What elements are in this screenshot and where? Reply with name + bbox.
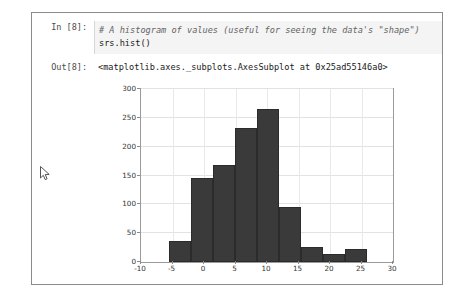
histogram-bar: [345, 249, 367, 262]
x-tick-mark: [203, 261, 204, 264]
code-input-area[interactable]: # A histogram of values (useful for seei…: [94, 21, 442, 54]
output-row: Out[8]: <matplotlib.axes._subplots.AxesS…: [32, 61, 442, 74]
x-tick-mark: [172, 261, 173, 264]
x-tick-mark: [329, 261, 330, 264]
histogram-bar: [301, 247, 323, 262]
y-tick-label: 250: [122, 112, 136, 121]
x-tick-label: 10: [261, 264, 270, 273]
x-tick-mark: [361, 261, 362, 264]
x-tick-label: 30: [387, 264, 396, 273]
x-tick-mark: [140, 261, 141, 264]
y-tick-label: 300: [122, 84, 136, 93]
x-tick-label: 0: [201, 264, 206, 273]
histogram-bar: [257, 109, 279, 262]
input-prompt-label: In [8]:: [32, 21, 94, 34]
x-tick-label: -10: [134, 264, 146, 273]
x-tick-mark: [235, 261, 236, 264]
y-tick-mark: [137, 232, 140, 233]
x-tick-label: 15: [293, 264, 302, 273]
y-tick-mark: [137, 203, 140, 204]
x-tick-mark: [392, 261, 393, 264]
y-tick-mark: [137, 146, 140, 147]
histogram-bar: [213, 165, 235, 262]
y-tick-mark: [137, 175, 140, 176]
y-tick-mark: [137, 88, 140, 89]
output-prompt-label: Out[8]:: [32, 61, 94, 74]
histogram-bars: [141, 89, 393, 262]
notebook-cell: In [8]: # A histogram of values (useful …: [31, 12, 443, 285]
code-comment-line: # A histogram of values (useful for seei…: [99, 24, 438, 37]
y-tick-label: 50: [127, 228, 136, 237]
mouse-pointer-icon: [40, 166, 52, 182]
x-tick-mark: [266, 261, 267, 264]
output-repr-text: <matplotlib.axes._subplots.AxesSubplot a…: [94, 61, 442, 74]
y-tick-label: 100: [122, 199, 136, 208]
histogram-bar: [279, 207, 301, 262]
histogram-bar: [235, 128, 257, 262]
code-statement-line: srs.hist(): [99, 37, 438, 50]
plot-axes-frame: [140, 88, 394, 263]
histogram-plot: 050100150200250300 -10-5051015202530: [88, 75, 408, 277]
x-tick-label: 25: [356, 264, 365, 273]
y-tick-label: 200: [122, 141, 136, 150]
histogram-bar: [323, 254, 345, 262]
histogram-bar: [169, 241, 191, 262]
histogram-bar: [191, 178, 213, 262]
y-tick-label: 150: [122, 170, 136, 179]
x-tick-label: 20: [324, 264, 333, 273]
x-tick-label: -5: [168, 264, 175, 273]
y-tick-mark: [137, 117, 140, 118]
x-tick-label: 5: [232, 264, 237, 273]
x-tick-mark: [298, 261, 299, 264]
input-row: In [8]: # A histogram of values (useful …: [32, 21, 442, 54]
